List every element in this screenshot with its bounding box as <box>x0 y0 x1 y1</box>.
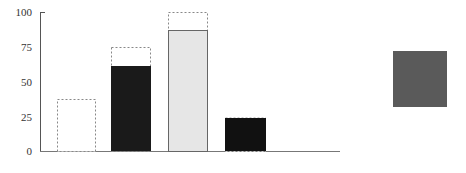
bar-2-actual <box>111 66 151 151</box>
bar-4-actual <box>225 118 266 151</box>
bar-chart: 100 75 50 25 0 <box>0 0 466 173</box>
y-tick-label: 25 <box>21 111 33 123</box>
legend-swatch <box>393 51 447 107</box>
y-tick-label: 75 <box>21 41 33 53</box>
bar-1-target <box>58 100 96 152</box>
y-tick-label: 50 <box>21 76 33 88</box>
y-tick-label: 100 <box>16 6 33 18</box>
bar-3-actual <box>169 31 208 152</box>
y-tick-label: 0 <box>27 145 33 157</box>
